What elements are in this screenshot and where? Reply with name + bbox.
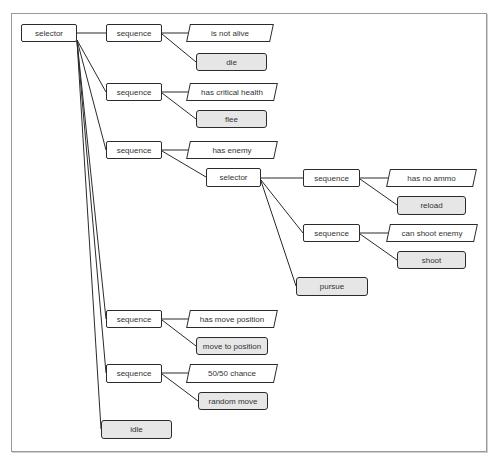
composite-node-seq2: sequence xyxy=(106,83,162,101)
node-label: shoot xyxy=(422,256,442,265)
condition-node-c2: has critical health xyxy=(188,83,276,101)
node-label: can shoot enemy xyxy=(402,229,463,238)
node-label: has move position xyxy=(200,315,264,324)
composite-node-root: selector xyxy=(21,24,77,42)
node-label: flee xyxy=(225,115,238,124)
node-label: reload xyxy=(420,201,442,210)
action-node-a4: move to position xyxy=(196,337,268,355)
node-label: random move xyxy=(209,397,258,406)
edge-sel2-to-seq32 xyxy=(261,180,303,233)
node-label: selector xyxy=(219,173,247,182)
composite-node-seq5: sequence xyxy=(106,364,162,383)
node-label: sequence xyxy=(117,369,152,378)
composite-node-seq31: sequence xyxy=(303,169,360,187)
edge-root-to-seq5 xyxy=(77,41,106,373)
node-label: 50/50 chance xyxy=(208,369,256,378)
condition-node-c32: can shoot enemy xyxy=(388,224,476,242)
node-label: idle xyxy=(130,425,142,434)
condition-node-c3: has enemy xyxy=(188,141,276,159)
condition-node-c1: is not alive xyxy=(188,24,272,42)
node-label: selector xyxy=(35,29,63,38)
condition-node-c5: 50/50 chance xyxy=(188,364,276,383)
node-label: sequence xyxy=(314,229,349,238)
composite-node-seq1: sequence xyxy=(106,24,162,42)
node-label: sequence xyxy=(117,315,152,324)
action-node-a6: idle xyxy=(101,420,172,439)
condition-node-c4: has move position xyxy=(188,310,276,328)
node-label: is not alive xyxy=(211,29,249,38)
action-node-a33: pursue xyxy=(296,277,368,296)
composite-node-seq4: sequence xyxy=(106,310,162,328)
action-node-a5: random move xyxy=(198,392,268,410)
node-label: move to position xyxy=(203,342,261,351)
node-label: sequence xyxy=(117,146,152,155)
node-label: has enemy xyxy=(212,146,251,155)
action-node-a31: reload xyxy=(397,196,466,215)
node-label: sequence xyxy=(117,29,152,38)
node-label: has no ammo xyxy=(407,174,455,183)
composite-node-sel2: selector xyxy=(206,168,261,187)
node-label: has critical health xyxy=(201,88,263,97)
composite-node-seq32: sequence xyxy=(303,224,360,242)
node-label: sequence xyxy=(117,88,152,97)
node-label: sequence xyxy=(314,174,349,183)
condition-node-c31: has no ammo xyxy=(388,169,475,187)
edge-sel2-to-a33 xyxy=(261,181,296,286)
node-label: die xyxy=(226,58,237,67)
action-node-a32: shoot xyxy=(397,251,466,269)
composite-node-seq3: sequence xyxy=(106,141,162,159)
action-node-a1: die xyxy=(196,53,267,71)
action-node-a2: flee xyxy=(196,110,267,128)
node-label: pursue xyxy=(320,282,344,291)
